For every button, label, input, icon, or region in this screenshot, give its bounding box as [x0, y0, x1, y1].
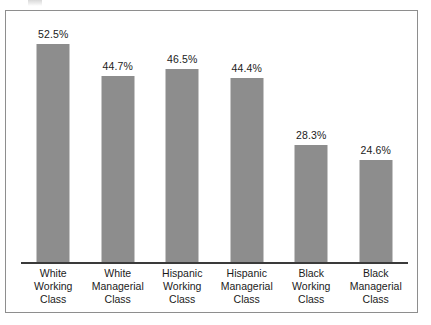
category-label-line: White — [86, 267, 151, 280]
category-label: White Managerial Class — [86, 267, 151, 307]
bar-value-label: 24.6% — [361, 144, 391, 156]
bar — [359, 160, 392, 262]
bar-slot: 24.6% — [344, 13, 409, 262]
category-label-line: Hispanic — [150, 267, 215, 280]
category-label-line: Black — [279, 267, 344, 280]
bar-value-label: 28.3% — [296, 129, 326, 141]
bar — [101, 76, 134, 262]
bar-slot: 28.3% — [279, 13, 344, 262]
bar-slot: 44.7% — [86, 13, 151, 262]
category-label-line: Class — [86, 293, 151, 306]
plot-area: 52.5% 44.7% 46.5% 44.4% 28.3% 24.6% — [0, 0, 431, 325]
category-label-line: Managerial — [86, 280, 151, 293]
bar — [166, 69, 199, 262]
x-axis-category-labels: White Working Class White Managerial Cla… — [21, 267, 408, 315]
bar — [37, 44, 70, 262]
chart-figure: 52.5% 44.7% 46.5% 44.4% 28.3% 24.6% — [0, 0, 431, 325]
category-label-line: Class — [21, 293, 86, 306]
category-label: White Working Class — [21, 267, 86, 307]
category-label-line: Class — [279, 293, 344, 306]
bar-value-label: 46.5% — [167, 53, 197, 65]
category-label-line: Managerial — [344, 280, 409, 293]
category-label-line: White — [21, 267, 86, 280]
bar-slot: 44.4% — [215, 13, 280, 262]
x-axis-line — [21, 262, 408, 264]
category-label-line: Class — [344, 293, 409, 306]
category-label: Hispanic Managerial Class — [215, 267, 280, 307]
bar-slot: 46.5% — [150, 13, 215, 262]
bar-value-label: 44.7% — [103, 60, 133, 72]
category-label: Black Working Class — [279, 267, 344, 307]
category-label-line: Class — [150, 293, 215, 306]
bar — [295, 145, 328, 262]
bar-slot: 52.5% — [21, 13, 86, 262]
category-label-line: Working — [150, 280, 215, 293]
bar-series: 52.5% 44.7% 46.5% 44.4% 28.3% 24.6% — [21, 14, 408, 263]
category-label-line: Class — [215, 293, 280, 306]
category-label-line: Hispanic — [215, 267, 280, 280]
bar-value-label: 44.4% — [232, 62, 262, 74]
bar-value-label: 52.5% — [38, 28, 68, 40]
category-label-line: Working — [279, 280, 344, 293]
category-label-line: Working — [21, 280, 86, 293]
category-label-line: Black — [344, 267, 409, 280]
category-label: Black Managerial Class — [344, 267, 409, 307]
bar — [230, 78, 263, 262]
category-label-line: Managerial — [215, 280, 280, 293]
category-label: Hispanic Working Class — [150, 267, 215, 307]
